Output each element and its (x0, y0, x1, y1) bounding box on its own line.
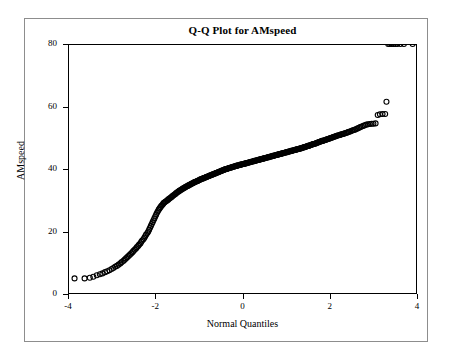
y-axis-tick-mark (63, 44, 68, 45)
y-axis-tick-mark (63, 169, 68, 170)
x-axis-tick-label: 4 (404, 301, 430, 311)
plot-area (68, 44, 417, 294)
y-axis-label: AMspeed (15, 111, 26, 211)
x-axis-tick-label: 0 (230, 301, 256, 311)
x-axis-tick-mark (417, 294, 418, 299)
data-point (384, 99, 389, 104)
y-axis-tick-label: 20 (31, 226, 57, 236)
data-point (82, 276, 87, 281)
x-axis-tick-mark (68, 294, 69, 299)
qq-plot-figure: Q-Q Plot for AMspeed Normal Quantiles AM… (0, 0, 452, 359)
x-axis-tick-mark (155, 294, 156, 299)
x-axis-tick-mark (330, 294, 331, 299)
y-axis-tick-label: 80 (31, 38, 57, 48)
scatter-layer (68, 44, 417, 294)
data-point (72, 276, 77, 281)
y-axis-tick-label: 0 (31, 288, 57, 298)
x-axis-label: Normal Quantiles (68, 318, 417, 329)
x-axis-tick-mark (243, 294, 244, 299)
data-point (410, 44, 415, 47)
y-axis-tick-mark (63, 232, 68, 233)
y-axis-tick-label: 40 (31, 163, 57, 173)
x-axis-tick-label: -4 (55, 301, 81, 311)
x-axis-tick-label: -2 (142, 301, 168, 311)
x-axis-tick-label: 2 (317, 301, 343, 311)
y-axis-tick-label: 60 (31, 101, 57, 111)
y-axis-tick-mark (63, 107, 68, 108)
data-point (401, 44, 406, 47)
page-title: Q-Q Plot for AMspeed (68, 24, 417, 36)
